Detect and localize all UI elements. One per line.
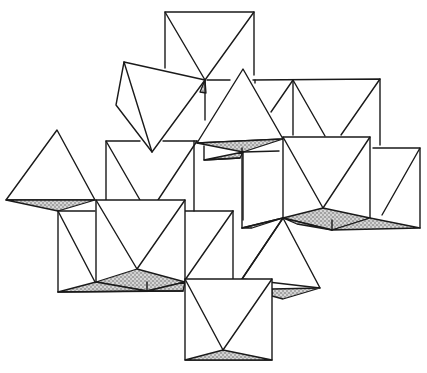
octahedron-center xyxy=(197,69,283,220)
octahedron-tilted xyxy=(116,62,205,152)
octahedra-diagram xyxy=(0,0,427,373)
octahedron-front-left xyxy=(58,200,185,292)
octahedron-bottom xyxy=(185,279,272,360)
octahedron-left xyxy=(6,130,95,211)
